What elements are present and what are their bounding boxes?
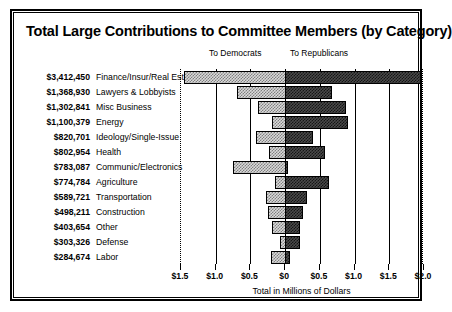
category-total-amount: $802,954	[26, 145, 90, 160]
bar-democrats	[184, 71, 285, 84]
bar-republicans	[285, 236, 300, 249]
bar-democrats	[266, 191, 285, 204]
bar-democrats	[271, 251, 286, 264]
chart-title: Total Large Contributions to Committee M…	[26, 23, 410, 39]
bar-row	[181, 235, 422, 250]
bar-republicans	[285, 71, 421, 84]
bar-row	[181, 220, 422, 235]
category-name: Defense	[96, 235, 128, 250]
bar-republicans	[285, 101, 346, 114]
bar-democrats	[272, 221, 285, 234]
x-axis-title: Total in Millions of Dollars	[180, 286, 423, 296]
axis-tick-label: $0.5	[302, 271, 336, 281]
list-item: $820,701Ideology/Single-Issue	[26, 130, 180, 145]
axis-tick-label: $1.5	[163, 271, 197, 281]
category-total-amount: $403,654	[26, 220, 90, 235]
list-item: $802,954Health	[26, 145, 180, 160]
list-item: $783,087Communic/Electronics	[26, 160, 180, 175]
axis-tick-label: $1.0	[198, 271, 232, 281]
category-name: Misc Business	[96, 100, 152, 115]
bar-republicans	[285, 161, 288, 174]
axis-tick-label: $0.5	[232, 271, 266, 281]
list-item: $1,302,841Misc Business	[26, 100, 180, 115]
bar-republicans	[285, 86, 332, 99]
category-name: Finance/Insur/Real Est	[96, 70, 184, 85]
category-name: Lawyers & Lobbyists	[96, 85, 176, 100]
category-total-amount: $589,721	[26, 190, 90, 205]
category-name: Labor	[96, 250, 118, 265]
bar-democrats	[237, 86, 285, 99]
axis-tick	[423, 264, 424, 270]
category-name: Communic/Electronics	[96, 160, 182, 175]
bar-row	[181, 250, 422, 265]
bar-democrats	[256, 131, 285, 144]
axis-tick	[319, 264, 320, 270]
list-item: $284,674Labor	[26, 250, 180, 265]
category-total-amount: $284,674	[26, 250, 90, 265]
axis-tick-label: $1.5	[371, 271, 405, 281]
category-total-amount: $820,701	[26, 130, 90, 145]
bar-row	[181, 175, 422, 190]
category-total-amount: $303,326	[26, 235, 90, 250]
bar-row	[181, 85, 422, 100]
bar-democrats	[258, 101, 285, 114]
bar-republicans	[285, 146, 325, 159]
category-name: Construction	[96, 205, 145, 220]
bar-row	[181, 115, 422, 130]
axis-tick	[284, 264, 285, 270]
x-axis-tick-labels: $1.5$1.0$0.5$0$0.5$1.0$1.5$2.0	[162, 271, 442, 285]
category-name: Ideology/Single-Issue	[96, 130, 179, 145]
list-item: $498,211Construction	[26, 205, 180, 220]
category-name: Agriculture	[96, 175, 138, 190]
list-item: $303,326Defense	[26, 235, 180, 250]
bar-row	[181, 145, 422, 160]
bar-republicans	[285, 206, 303, 219]
bar-republicans	[285, 116, 348, 129]
bar-republicans	[285, 251, 290, 264]
bar-rows	[181, 69, 422, 264]
category-total-amount: $1,100,379	[26, 115, 90, 130]
category-total-amount: $783,087	[26, 160, 90, 175]
category-total-amount: $3,412,450	[26, 70, 90, 85]
category-total-amount: $1,368,930	[26, 85, 90, 100]
bar-republicans	[285, 221, 300, 234]
category-name: Other	[96, 220, 118, 235]
axis-tick	[249, 264, 250, 270]
bar-democrats	[233, 161, 285, 174]
axis-tick-label: $2.0	[406, 271, 440, 281]
list-item: $774,784Agriculture	[26, 175, 180, 190]
bar-row	[181, 100, 422, 115]
bar-republicans	[285, 176, 329, 189]
chart-frame: Total Large Contributions to Committee M…	[10, 9, 422, 301]
bar-democrats	[269, 146, 285, 159]
category-total-amount: $1,302,841	[26, 100, 90, 115]
bar-republicans	[285, 191, 307, 204]
bar-democrats	[275, 176, 285, 189]
list-item: $3,412,450Finance/Insur/Real Est	[26, 70, 180, 85]
bar-row	[181, 205, 422, 220]
bar-row	[181, 70, 422, 85]
axis-tick	[354, 264, 355, 270]
list-item: $1,100,379Energy	[26, 115, 180, 130]
legend-label-republicans: To Republicans	[290, 48, 348, 58]
bar-row	[181, 130, 422, 145]
category-total-amount: $498,211	[26, 205, 90, 220]
bar-republicans	[285, 131, 313, 144]
category-name: Transportation	[96, 190, 152, 205]
category-label-column: $3,412,450Finance/Insur/Real Est$1,368,9…	[26, 69, 180, 264]
plot-area	[180, 69, 423, 264]
axis-tick-label: $1.0	[337, 271, 371, 281]
category-name: Energy	[96, 115, 124, 130]
axis-tick-label: $0	[267, 271, 301, 281]
legend-label-democrats: To Democrats	[209, 48, 261, 58]
category-name: Health	[96, 145, 121, 160]
bar-row	[181, 190, 422, 205]
bar-democrats	[268, 206, 285, 219]
axis-tick	[388, 264, 389, 270]
list-item: $403,654Other	[26, 220, 180, 235]
axis-tick	[215, 264, 216, 270]
bar-row	[181, 160, 422, 175]
list-item: $1,368,930Lawyers & Lobbyists	[26, 85, 180, 100]
list-item: $589,721Transportation	[26, 190, 180, 205]
